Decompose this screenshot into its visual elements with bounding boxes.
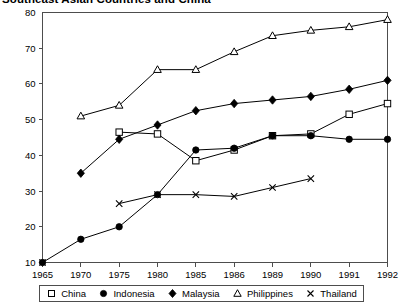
x-tick-label: 1975 <box>109 269 130 280</box>
y-tick-label: 30 <box>25 186 36 197</box>
legend-item-thailand[interactable]: Thailand <box>305 288 356 299</box>
chart-series <box>39 175 314 265</box>
open-square-icon <box>46 288 57 299</box>
x-tick-label: 1985 <box>185 269 206 280</box>
x-tick-label: 1992 <box>377 269 398 280</box>
chart-series <box>116 100 391 164</box>
legend-item-label: Malaysia <box>182 288 220 299</box>
filled-circle-icon <box>98 288 109 299</box>
x-tick-label: 1990 <box>300 269 321 280</box>
open-square-legend-symbol <box>46 288 57 299</box>
filled-diamond-icon <box>167 288 178 299</box>
y-tick-label: 80 <box>25 7 36 18</box>
x-tick-label: 1991 <box>339 269 360 280</box>
y-tick-label: 20 <box>25 221 36 232</box>
x-tick-label: 1970 <box>70 269 91 280</box>
filled-diamond-legend-symbol <box>167 288 178 299</box>
open-triangle-icon <box>232 288 243 299</box>
x-tick-label: 1980 <box>147 269 168 280</box>
x-axis: 1965197019751980198519861989199019911992 <box>32 263 398 280</box>
y-tick-label: 50 <box>25 114 36 125</box>
legend-item-label: Thailand <box>320 288 356 299</box>
legend-item-label: China <box>61 288 86 299</box>
chart-legend: ChinaIndonesiaMalaysiaPhilippinesThailan… <box>39 285 364 302</box>
chart-plot-area: 1020304050607080196519701975198019851986… <box>0 0 404 306</box>
legend-item-label: Indonesia <box>113 288 154 299</box>
y-axis: 1020304050607080 <box>25 7 43 268</box>
y-tick-label: 10 <box>25 257 36 268</box>
y-tick-label: 70 <box>25 43 36 54</box>
y-tick-label: 40 <box>25 150 36 161</box>
open-triangle-legend-symbol <box>232 288 243 299</box>
cross-icon <box>305 288 316 299</box>
x-tick-label: 1989 <box>262 269 283 280</box>
filled-circle-legend-symbol <box>98 288 109 299</box>
legend-item-china[interactable]: China <box>46 288 86 299</box>
chart-series <box>77 76 391 177</box>
chart-series <box>39 133 390 266</box>
x-tick-label: 1986 <box>224 269 245 280</box>
legend-item-indonesia[interactable]: Indonesia <box>98 288 154 299</box>
legend-item-malaysia[interactable]: Malaysia <box>167 288 220 299</box>
legend-item-philippines[interactable]: Philippines <box>232 288 293 299</box>
y-tick-label: 60 <box>25 78 36 89</box>
legend-item-label: Philippines <box>247 288 293 299</box>
x-tick-label: 1965 <box>32 269 53 280</box>
cross-legend-symbol <box>305 288 316 299</box>
chart-container: Southeast Asian Countries and China 1020… <box>0 0 404 306</box>
axis-frame <box>43 13 388 263</box>
